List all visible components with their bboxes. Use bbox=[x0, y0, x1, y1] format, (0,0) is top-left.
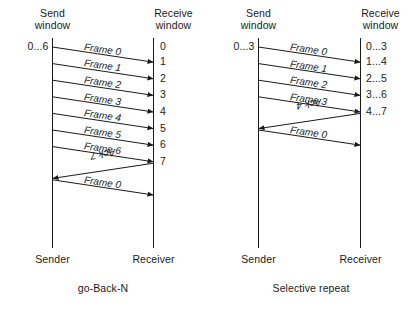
sender-endpoint-label: Sender bbox=[241, 254, 275, 265]
receiver-window-state: 2...5 bbox=[366, 73, 387, 84]
receiver-window-state: 7 bbox=[160, 156, 166, 167]
receiver-window-state: 4...7 bbox=[366, 106, 387, 117]
panel-caption: go-Back-N bbox=[78, 283, 129, 294]
receiver-window-state: 3 bbox=[160, 89, 166, 100]
receiver-window-state: 6 bbox=[160, 139, 166, 150]
receiver-window-state: 5 bbox=[160, 123, 166, 134]
receiver-endpoint-label: Receiver bbox=[132, 254, 174, 265]
sender-endpoint-label: Sender bbox=[35, 254, 69, 265]
receiver-window-state: 0 bbox=[160, 41, 166, 52]
receiver-header-line2: window bbox=[156, 20, 192, 31]
sender-header-line2: window bbox=[241, 20, 277, 31]
sender-header-line1: Send bbox=[40, 8, 65, 19]
receiver-header-line1: Receive bbox=[361, 8, 400, 19]
sender-header-line2: window bbox=[35, 20, 71, 31]
sender-window-range: 0...6 bbox=[28, 41, 49, 52]
receiver-window-state: 0...3 bbox=[366, 41, 387, 52]
receiver-header-line2: window bbox=[363, 20, 399, 31]
receiver-window-state: 1 bbox=[160, 56, 166, 67]
sender-window-range: 0...3 bbox=[234, 41, 255, 52]
receiver-window-state: 3...6 bbox=[366, 89, 387, 100]
receiver-endpoint-label: Receiver bbox=[339, 254, 381, 265]
panel-caption: Selective repeat bbox=[273, 283, 350, 294]
receiver-window-state: 2 bbox=[160, 73, 166, 84]
receiver-window-state: 4 bbox=[160, 106, 166, 117]
receiver-header-line1: Receive bbox=[154, 8, 193, 19]
figure-root: SendwindowReceivewindow0...6Frame 0Frame… bbox=[0, 0, 409, 310]
receiver-window-state: 1...4 bbox=[366, 56, 387, 67]
sender-header-line1: Send bbox=[246, 8, 271, 19]
